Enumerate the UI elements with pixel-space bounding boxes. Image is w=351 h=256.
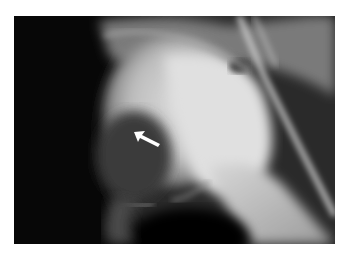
- arrow-icon: [14, 16, 335, 244]
- xray-image: [14, 16, 335, 244]
